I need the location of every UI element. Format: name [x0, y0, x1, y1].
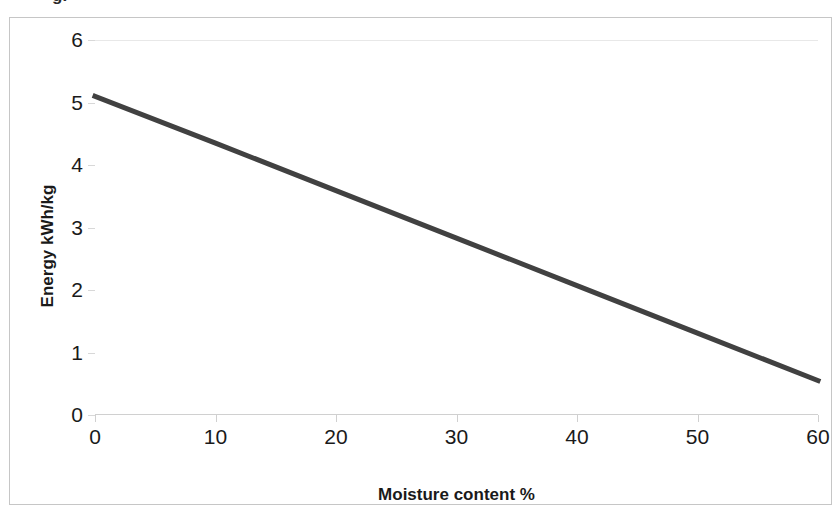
y-tick-label: 4	[71, 153, 83, 177]
x-tick-label: 10	[204, 425, 227, 449]
plot-area: 0123456 0102030405060	[95, 40, 818, 415]
x-tick-mark	[577, 415, 578, 422]
y-tick-label: 0	[71, 403, 83, 427]
y-tick-mark	[88, 40, 95, 41]
y-tick-mark	[88, 353, 95, 354]
series-line	[95, 40, 818, 415]
x-tick-label: 0	[89, 425, 101, 449]
y-tick-label: 1	[71, 341, 83, 365]
x-tick-label: 40	[565, 425, 588, 449]
cut-off-caption: g.	[0, 0, 840, 9]
y-tick-label: 6	[71, 28, 83, 52]
x-tick-mark	[216, 415, 217, 422]
x-axis-title: Moisture content %	[378, 485, 535, 505]
x-tick-mark	[95, 415, 96, 422]
x-tick-label: 60	[806, 425, 829, 449]
x-tick-mark	[336, 415, 337, 422]
x-tick-mark	[698, 415, 699, 422]
x-tick-mark	[818, 415, 819, 422]
caption-remnant-text: g.	[52, 0, 67, 6]
y-tick-mark	[88, 165, 95, 166]
x-tick-label: 50	[686, 425, 709, 449]
x-tick-label: 20	[324, 425, 347, 449]
x-tick-mark	[457, 415, 458, 422]
y-tick-label: 3	[71, 216, 83, 240]
chart-frame: 0123456 0102030405060 Energy kWh/kg Mois…	[9, 17, 832, 505]
y-tick-label: 5	[71, 91, 83, 115]
y-axis-title: Energy kWh/kg	[38, 185, 58, 308]
y-tick-mark	[88, 290, 95, 291]
x-axis-title-wrap: Moisture content %	[10, 485, 831, 505]
series-polyline	[95, 96, 818, 380]
x-tick-label: 30	[445, 425, 468, 449]
y-tick-label: 2	[71, 278, 83, 302]
y-tick-mark	[88, 228, 95, 229]
y-tick-mark	[88, 103, 95, 104]
y-tick-mark	[88, 415, 95, 416]
